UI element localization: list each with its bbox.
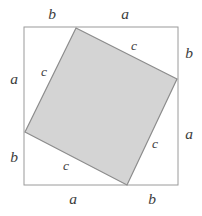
label-top-left-b: b <box>48 6 56 22</box>
label-hypotenuse-left-top: c <box>41 65 47 79</box>
label-bottom-right-b: b <box>148 191 156 207</box>
label-hypotenuse-right-bottom: c <box>152 137 158 151</box>
label-top-right-a: a <box>121 6 129 22</box>
label-left-top-a: a <box>10 71 18 87</box>
inner-tilted-square <box>25 28 177 185</box>
label-right-top-b: b <box>185 45 193 61</box>
label-right-bottom-a: a <box>185 126 193 142</box>
label-hypotenuse-top-right: c <box>131 39 137 53</box>
label-bottom-left-a: a <box>69 191 77 207</box>
figure-canvas <box>0 0 202 216</box>
geometry-figure: b a b a b a b a c c c c <box>0 0 202 216</box>
label-left-bottom-b: b <box>10 149 18 165</box>
label-hypotenuse-bottom-left: c <box>63 159 69 173</box>
